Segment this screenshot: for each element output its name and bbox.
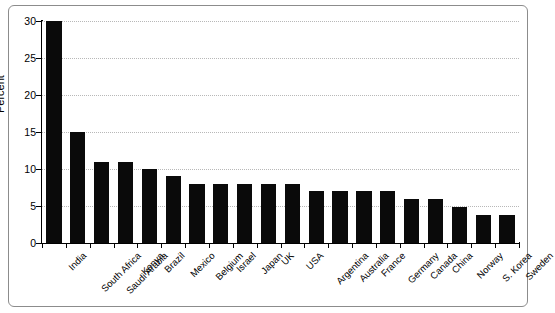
bar: [309, 191, 324, 243]
y-tick-label: 5: [0, 200, 36, 212]
x-tick-mark: [519, 243, 520, 248]
gridline: [42, 206, 519, 208]
bar: [166, 176, 181, 243]
y-tick-label: 10: [0, 163, 36, 175]
y-tick-label: 15: [0, 126, 36, 138]
y-tick-label: 0: [0, 237, 36, 249]
y-tick-mark: [36, 95, 42, 96]
x-tick-mark: [328, 243, 329, 248]
bar: [428, 199, 443, 243]
x-tick-mark: [400, 243, 401, 248]
y-tick-mark: [36, 21, 42, 22]
bar: [237, 184, 252, 243]
y-tick-mark: [36, 206, 42, 207]
bar: [46, 21, 61, 243]
x-tick-mark: [42, 243, 43, 248]
x-tick-mark: [495, 243, 496, 248]
bar: [261, 184, 276, 243]
bar: [189, 184, 204, 243]
plot-area: [42, 21, 519, 243]
y-tick-label: 30: [0, 15, 36, 27]
bar: [404, 199, 419, 243]
x-tick-mark: [209, 243, 210, 248]
x-tick-mark: [161, 243, 162, 248]
y-tick-mark: [36, 58, 42, 59]
x-tick-mark: [471, 243, 472, 248]
x-tick-mark: [424, 243, 425, 248]
x-tick-mark: [185, 243, 186, 248]
x-tick-mark: [233, 243, 234, 248]
x-tick-mark: [281, 243, 282, 248]
bar: [70, 132, 85, 243]
x-tick-mark: [352, 243, 353, 248]
bar: [499, 215, 514, 243]
x-tick-mark: [304, 243, 305, 248]
gridline: [42, 21, 519, 23]
gridline: [42, 169, 519, 171]
x-tick-mark: [66, 243, 67, 248]
bar: [94, 162, 109, 243]
y-tick-label: 20: [0, 89, 36, 101]
gridline: [42, 95, 519, 97]
bar: [356, 191, 371, 243]
bar: [213, 184, 228, 243]
bar: [476, 215, 491, 243]
x-tick-mark: [114, 243, 115, 248]
bar: [332, 191, 347, 243]
bar: [285, 184, 300, 243]
x-tick-mark: [257, 243, 258, 248]
bar: [380, 191, 395, 243]
x-tick-mark: [90, 243, 91, 248]
gridline: [42, 132, 519, 134]
x-tick-mark: [137, 243, 138, 248]
y-tick-mark: [36, 132, 42, 133]
gridline: [42, 58, 519, 60]
bar: [452, 207, 467, 243]
x-tick-mark: [376, 243, 377, 248]
bar: [142, 169, 157, 243]
y-tick-mark: [36, 169, 42, 170]
x-tick-mark: [447, 243, 448, 248]
bar: [118, 162, 133, 243]
y-tick-label: 25: [0, 52, 36, 64]
